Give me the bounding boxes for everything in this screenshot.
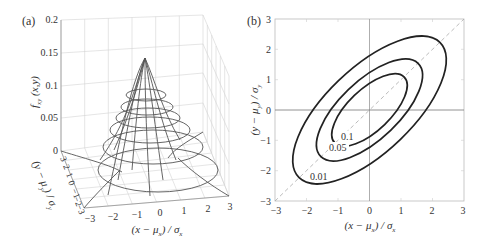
y-tick: 3 <box>266 14 271 25</box>
x-tick: −3 <box>271 205 282 216</box>
svg-text:(y − μy) / σy: (y − μy) / σy <box>248 84 263 136</box>
x-tick: 0 <box>158 207 163 218</box>
z-axis-label: fxy (x,y) <box>28 76 43 108</box>
y-tick: 0 <box>66 179 77 187</box>
x-tick: 2 <box>430 205 435 216</box>
panel-b: (b) 0.1 0.05 0.01 <box>247 13 471 234</box>
x-tick: 1 <box>182 205 187 216</box>
panel-b-y-ticks: 3 2 1 0 −1 −2 −3 <box>260 14 271 207</box>
y-axis-label: (y − μy) / σy <box>28 159 61 213</box>
x-tick: −2 <box>302 205 313 216</box>
x-tick: −1 <box>132 209 143 220</box>
x-tick: −3 <box>85 213 96 224</box>
panel-a-box <box>61 15 229 208</box>
panel-a-label: (a) <box>22 14 35 28</box>
x-axis-label: (x − μx) / σx <box>132 223 184 238</box>
x-tick: 3 <box>228 201 233 212</box>
z-tick: 0.15 <box>41 47 59 58</box>
y-tick: 0 <box>266 105 271 116</box>
z-tick: 0 <box>53 145 58 156</box>
panel-b-y-axis-label: (y − μy) / σy <box>248 84 263 136</box>
y-tick: −2 <box>260 165 271 176</box>
svg-text:fxy (x,y): fxy (x,y) <box>28 76 43 108</box>
panel-a: (a) <box>22 14 233 238</box>
panel-b-label: (b) <box>247 14 261 28</box>
panel-a-x-axis: −3 −2 −1 0 1 2 3 (x − μx) / σx <box>84 196 233 238</box>
y-tick: 3 <box>58 155 69 163</box>
z-tick: 0.1 <box>46 80 59 91</box>
x-tick: 0 <box>367 205 372 216</box>
contour-label-0.05: 0.05 <box>329 142 347 153</box>
panel-a-surface <box>61 58 229 208</box>
x-tick: 3 <box>461 205 466 216</box>
x-tick: −2 <box>108 211 119 222</box>
y-tick: 2 <box>266 44 271 55</box>
y-tick: 1 <box>266 74 271 85</box>
panel-b-x-ticks: −3 −2 −1 0 1 2 3 <box>271 205 466 216</box>
x-tick: −1 <box>333 205 344 216</box>
panel-b-x-axis-label: (x − μx) / σx <box>345 219 397 234</box>
figure: (a) <box>0 0 484 242</box>
contour-label-0.01: 0.01 <box>310 171 328 182</box>
panel-a-y-axis: 3 2 1 0 −1 −2 −3 (y − μy) / σy <box>28 151 87 216</box>
contour-label-0.1: 0.1 <box>341 131 354 142</box>
z-tick: 0.05 <box>41 112 59 123</box>
x-tick: 1 <box>399 205 404 216</box>
svg-text:(y − μy) / σy: (y − μy) / σy <box>28 159 61 213</box>
x-tick: 2 <box>206 203 211 214</box>
y-tick: −3 <box>260 196 271 207</box>
contour-labels: 0.1 0.05 0.01 <box>309 131 354 182</box>
z-tick: 0.2 <box>46 14 59 25</box>
panel-a-z-axis: 0.2 0.15 0.1 0.05 0 fxy (x,y) <box>28 14 61 156</box>
y-tick: 1 <box>64 171 75 179</box>
y-tick: −1 <box>260 135 271 146</box>
